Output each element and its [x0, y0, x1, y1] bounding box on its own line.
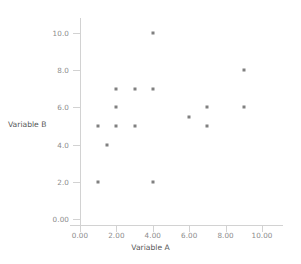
y-tick-mark: [73, 145, 80, 146]
plot-data-area: [80, 33, 277, 219]
data-point: [97, 180, 100, 183]
data-point: [97, 125, 100, 128]
y-tick-label: 2.0: [57, 177, 69, 186]
data-point: [206, 125, 209, 128]
data-point: [133, 125, 136, 128]
data-point: [242, 106, 245, 109]
y-tick-mark: [73, 70, 80, 71]
data-point: [106, 143, 109, 146]
y-tick-label: 10.0: [53, 29, 69, 38]
x-axis-line: [70, 225, 283, 226]
data-point: [115, 106, 118, 109]
data-point: [151, 32, 154, 35]
y-tick-mark: [73, 219, 80, 220]
x-tick-label: 10.00: [251, 231, 272, 240]
x-tick-label: 4.00: [145, 231, 161, 240]
data-point: [151, 180, 154, 183]
data-point: [151, 87, 154, 90]
y-tick-label: 8.0: [57, 66, 69, 75]
x-tick-label: 2.00: [108, 231, 124, 240]
y-tick-label: 4.0: [57, 140, 69, 149]
y-tick-mark: [73, 107, 80, 108]
x-tick-label: 8.00: [217, 231, 233, 240]
x-tick-label: 6.00: [181, 231, 197, 240]
y-tick-mark: [73, 182, 80, 183]
data-point: [115, 125, 118, 128]
data-point: [242, 69, 245, 72]
data-point: [115, 87, 118, 90]
x-axis-title: Variable A: [0, 243, 301, 252]
x-tick-label: 0.00: [72, 231, 88, 240]
y-axis-title: Variable B: [8, 120, 46, 129]
data-point: [133, 87, 136, 90]
y-tick-mark: [73, 33, 80, 34]
data-point: [188, 115, 191, 118]
y-tick-label: 0.00: [53, 215, 69, 224]
scatter-plot-figure: 0.002.04.06.08.010.0 0.002.004.006.008.0…: [0, 0, 301, 264]
y-tick-label: 6.0: [57, 103, 69, 112]
data-point: [206, 106, 209, 109]
